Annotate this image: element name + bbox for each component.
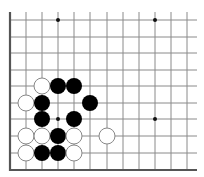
white-stone[interactable] [66,128,82,144]
black-stone[interactable] [34,111,50,127]
white-stone[interactable] [18,128,34,144]
black-stone[interactable] [50,145,66,161]
black-stone[interactable] [66,111,82,127]
black-stone[interactable] [34,145,50,161]
star-point-icon [56,18,60,22]
black-stone[interactable] [50,78,66,94]
black-stone[interactable] [82,95,98,111]
black-stone[interactable] [66,78,82,94]
white-stone[interactable] [34,128,50,144]
white-stone[interactable] [99,128,115,144]
star-point-icon [153,117,157,121]
star-point-icon [153,18,157,22]
white-stone[interactable] [66,145,82,161]
black-stone[interactable] [34,95,50,111]
black-stone[interactable] [50,128,66,144]
go-board[interactable] [0,0,204,177]
white-stone[interactable] [18,95,34,111]
white-stone[interactable] [18,145,34,161]
white-stone[interactable] [34,78,50,94]
star-point-icon [56,117,60,121]
